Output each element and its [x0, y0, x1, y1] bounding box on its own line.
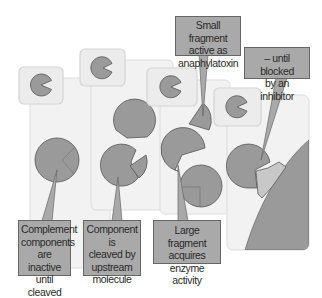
- label-line: molecule: [86, 273, 138, 286]
- label-line: components: [21, 236, 68, 249]
- label-line: by an inhibitor: [247, 77, 307, 102]
- panel-step4: [214, 88, 309, 250]
- label-line: Large fragment: [156, 224, 218, 249]
- label-step1: Complement components are inactive until…: [18, 220, 71, 276]
- label-line: cleaved by: [86, 248, 138, 261]
- label-inhibitor: – until blocked by an inhibitor: [244, 47, 310, 79]
- label-line: Complement: [21, 223, 68, 236]
- label-line: active as: [178, 44, 238, 57]
- label-line: Small fragment: [178, 19, 238, 44]
- label-line: are inactive: [21, 248, 68, 273]
- label-line: upstream: [86, 261, 138, 274]
- component-icon: [180, 165, 222, 207]
- label-line: anaphylatoxin: [178, 57, 238, 70]
- label-line: until cleaved: [21, 273, 68, 298]
- label-line: acquires enzyme: [156, 249, 218, 274]
- label-step2: Component is cleaved by upstream molecul…: [83, 220, 141, 276]
- label-step3: Large fragment acquires enzyme activity: [153, 220, 221, 264]
- inactive-component-icon: [35, 138, 79, 182]
- label-line: – until blocked: [247, 52, 307, 77]
- label-line: activity: [156, 274, 218, 287]
- label-small-fragment: Small fragment active as anaphylatoxin: [175, 16, 241, 56]
- label-line: Component is: [86, 223, 138, 248]
